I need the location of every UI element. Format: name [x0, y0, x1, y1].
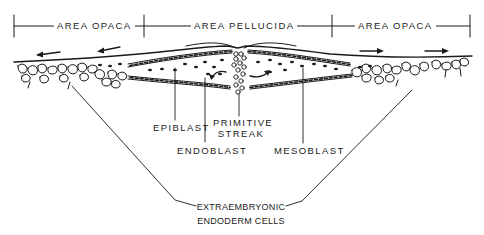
- region-label-area-opaca-right: AREA OPACA: [355, 20, 436, 31]
- arrow-left-icon: [36, 52, 43, 58]
- region-label-area-opaca-left: AREA OPACA: [54, 20, 135, 31]
- label-primitive-streak: PRIMITIVE STREAK: [213, 117, 269, 139]
- arrow-right-icon: [377, 48, 384, 54]
- label-mesoblast: MESOBLAST: [274, 145, 345, 156]
- arrow-left-icon: [97, 48, 104, 54]
- label-epiblast: EPIBLAST: [153, 122, 210, 133]
- label-extraembryonic-endoderm-cells: EXTRAEMBRYONIC ENDODERM CELLS: [196, 200, 286, 228]
- label-extraembryonic-line1: EXTRAEMBRYONIC: [196, 200, 286, 214]
- yolk-cells-right: [352, 58, 469, 86]
- arrow-right-icon: [442, 48, 449, 54]
- label-primitive-streak-line2: STREAK: [213, 128, 269, 139]
- region-label-area-pellucida: AREA PELLUCIDA: [191, 20, 297, 31]
- label-primitive-streak-line1: PRIMITIVE: [213, 117, 269, 128]
- label-endoblast: ENDOBLAST: [177, 145, 247, 156]
- primitive-streak-cluster: [232, 52, 246, 94]
- embryo-cross-section-diagram: AREA OPACA AREA PELLUCIDA AREA OPACA EPI…: [0, 0, 484, 235]
- label-extraembryonic-line2: ENDODERM CELLS: [196, 214, 286, 228]
